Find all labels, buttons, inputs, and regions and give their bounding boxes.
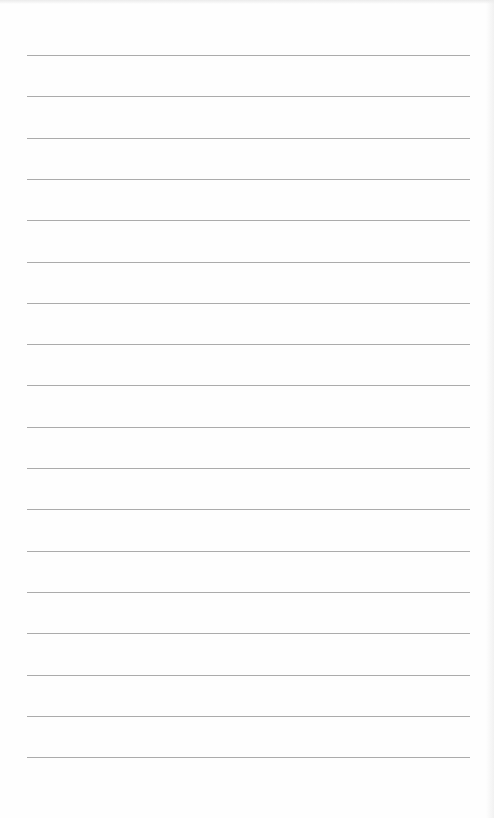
ruled-line [27,675,470,676]
ruled-line [27,592,470,593]
top-edge-shade [0,0,494,4]
ruled-line [27,551,470,552]
ruled-line [27,55,470,56]
ruled-line [27,262,470,263]
ruled-line [27,757,470,758]
ruled-line [27,468,470,469]
ruled-line [27,96,470,97]
lined-paper-page [0,0,494,818]
ruled-line [27,509,470,510]
ruled-line [27,138,470,139]
ruled-line [27,385,470,386]
ruled-line [27,427,470,428]
ruled-line [27,633,470,634]
ruled-line [27,344,470,345]
ruled-line [27,220,470,221]
ruled-line [27,303,470,304]
ruled-line [27,716,470,717]
right-edge-shadow [486,0,494,818]
ruled-line [27,179,470,180]
